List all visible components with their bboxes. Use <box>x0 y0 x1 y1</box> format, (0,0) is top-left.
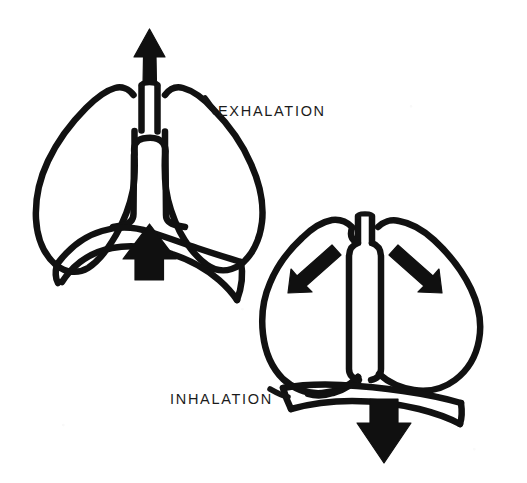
air-in-left-arrow <box>288 245 341 293</box>
inhalation-trachea <box>358 214 372 243</box>
scanned-illustration-page: EXHALATION <box>0 0 527 483</box>
inhalation-label: INHALATION <box>170 391 273 407</box>
inhalation-mediastinum <box>349 228 381 380</box>
exhalation-trachea <box>142 83 158 132</box>
exhalation-label: EXHALATION <box>218 103 326 119</box>
exhalation-diaphragm-left-edge <box>56 264 58 283</box>
air-out-arrow <box>134 29 165 85</box>
respiration-diagram-canvas: EXHALATION <box>0 0 527 483</box>
diaphragm-rise-arrow <box>123 224 176 280</box>
inhalation-left-lung <box>262 220 358 393</box>
inhalation-diaphragm-right-edge <box>460 403 462 424</box>
inhalation-right-lung <box>378 220 480 390</box>
air-in-right-arrow <box>389 245 442 293</box>
